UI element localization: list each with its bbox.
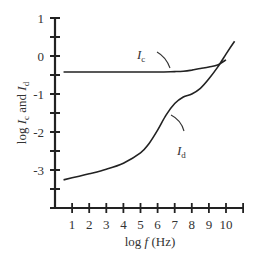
x-tick-label: 9 <box>206 217 213 232</box>
annotations: IcId <box>136 47 186 160</box>
x-tick-label: 4 <box>120 217 127 232</box>
y-axis-title: log Ic and Id <box>14 81 31 144</box>
y-tick-label: -3 <box>33 163 44 178</box>
i-d-label: Id <box>176 143 186 160</box>
x-tick-label: 8 <box>189 217 196 232</box>
chart: 10-1-2-312345678910log f (Hz)log Ic and … <box>0 0 257 260</box>
x-tick-label: 2 <box>86 217 93 232</box>
y-tick-label: 1 <box>38 11 45 26</box>
x-axis-title: log f (Hz) <box>125 234 176 249</box>
y-tick-label: -1 <box>33 87 44 102</box>
x-tick-label: 10 <box>220 217 233 232</box>
y-tick-label: 0 <box>38 49 45 64</box>
y-tick-label: -2 <box>33 125 44 140</box>
x-tick-label: 3 <box>103 217 110 232</box>
curve-i-d <box>64 41 235 180</box>
x-tick-label: 1 <box>69 217 76 232</box>
x-tick-label: 5 <box>137 217 144 232</box>
i-d-leader-line <box>171 115 184 131</box>
i-c-leader-line <box>157 52 170 68</box>
axes: 10-1-2-312345678910log f (Hz)log Ic and … <box>14 11 243 250</box>
x-tick-label: 6 <box>154 217 161 232</box>
i-c-label: Ic <box>136 47 145 64</box>
x-tick-label: 7 <box>171 217 178 232</box>
series <box>64 41 235 180</box>
